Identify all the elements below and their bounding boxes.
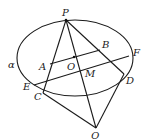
segment-ef	[34, 56, 129, 85]
label-e: E	[22, 81, 31, 92]
label-c: C	[34, 91, 42, 102]
point-p-dot	[65, 19, 68, 22]
geometry-diagram: P B F α A O M D E C Q	[0, 0, 148, 139]
label-p: P	[61, 7, 69, 18]
label-o: O	[67, 61, 75, 72]
label-b: B	[101, 39, 109, 50]
label-alpha: α	[8, 59, 15, 70]
label-a: A	[38, 61, 46, 72]
segment-dq	[96, 74, 124, 128]
label-q: Q	[91, 130, 99, 139]
label-f: F	[132, 47, 141, 58]
point-o-dot	[73, 56, 75, 58]
label-m: M	[84, 68, 96, 79]
segment-pc	[43, 20, 66, 93]
label-d: D	[125, 75, 134, 86]
